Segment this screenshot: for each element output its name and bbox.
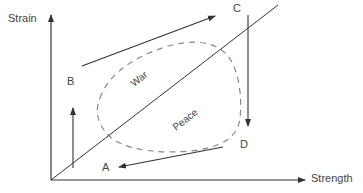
arrow-d-to-a [119,147,223,167]
point-label-c: C [233,2,241,14]
strain-strength-diagram: Strain Strength B C D A War Peace [0,0,363,193]
point-label-b: B [67,75,74,87]
y-axis-label: Strain [8,12,37,24]
arrow-b-to-c [82,16,215,66]
region-label-peace: Peace [170,106,199,132]
point-label-a: A [102,161,110,173]
point-label-d: D [240,138,248,150]
dashed-boundary [97,42,240,152]
x-axis-label: Strength [311,172,353,184]
region-label-war: War [128,68,149,88]
diagonal-line [51,5,278,180]
